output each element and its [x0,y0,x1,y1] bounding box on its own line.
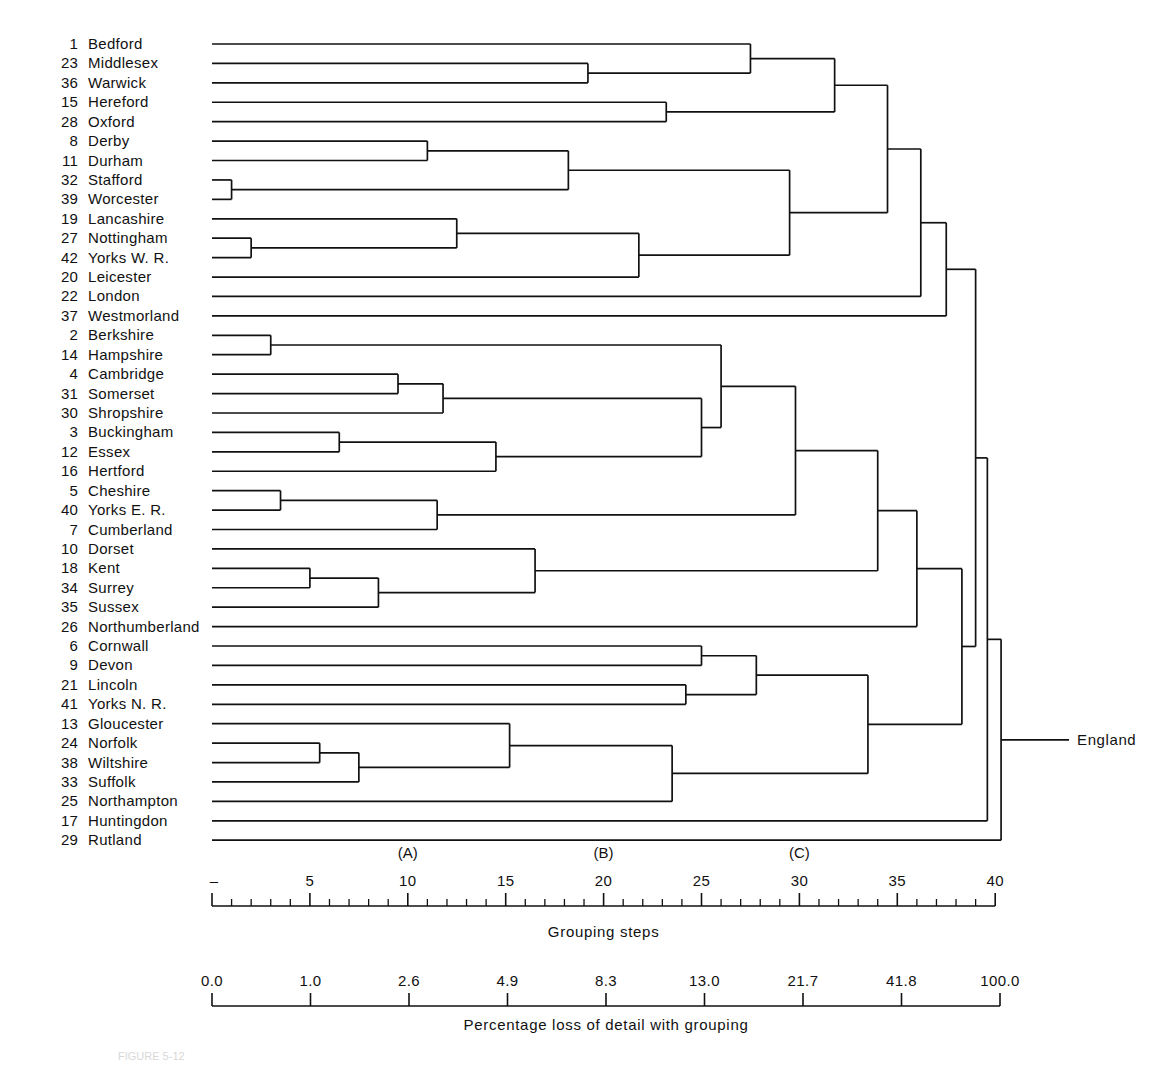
leaf-name: Stafford [88,171,143,188]
leaf-number: 40 [61,501,78,518]
leaf-number: 24 [61,734,78,751]
leaf-number: 12 [61,443,78,460]
axis-tick-label: 8.3 [595,972,617,989]
leaf-number: 1 [69,35,78,52]
axis-tick-label: 40 [986,872,1004,889]
leaf-number: 17 [61,812,78,829]
leaf-name: Wiltshire [88,754,148,771]
leaf-number: 9 [69,656,78,673]
leaf-name: Essex [88,443,131,460]
axis-tick-label: 0.0 [201,972,223,989]
axis-tick-label: 13.0 [689,972,720,989]
grouping-steps-axis-title: Grouping steps [548,923,660,940]
axis-tick-label: 2.6 [398,972,420,989]
leaf-name: Norfolk [88,734,138,751]
leaf-name: Lancashire [88,210,164,227]
leaf-number: 7 [69,521,78,538]
leaf-number: 13 [61,715,78,732]
leaf-number: 18 [61,559,78,576]
leaf-name: Cumberland [88,521,173,538]
leaf-number: 27 [61,229,78,246]
leaf-name: Berkshire [88,326,154,343]
leaf-name: Durham [88,152,143,169]
leaf-name: Hereford [88,93,149,110]
leaf-number: 14 [61,346,78,363]
leaf-name: Northumberland [88,618,200,635]
leaf-name: Huntingdon [88,812,168,829]
leaf-number: 4 [69,365,78,382]
leaf-name: Rutland [88,831,142,848]
axis-tick-label: 5 [306,872,315,889]
leaf-name: Bedford [88,35,143,52]
leaf-number: 30 [61,404,78,421]
leaf-name: Yorks W. R. [88,249,169,266]
leaf-name: London [88,287,140,304]
leaf-name: Surrey [88,579,134,596]
leaf-name: Suffolk [88,773,136,790]
leaf-name: Hampshire [88,346,163,363]
leaf-number: 26 [61,618,78,635]
axis-tick-label: 30 [791,872,809,889]
leaf-name: Leicester [88,268,152,285]
leaf-number: 34 [61,579,78,596]
leaf-name: Dorset [88,540,135,557]
leaf-number: 28 [61,113,78,130]
leaf-number: 20 [61,268,78,285]
leaf-number: 6 [69,637,78,654]
leaf-name: Cambridge [88,365,164,382]
leaf-name: Middlesex [88,54,158,71]
leaf-name: Devon [88,656,133,673]
dendrogram-figure: 1Bedford23Middlesex36Warwick15Hereford28… [0,0,1158,1066]
axis-marker-a: (A) [398,844,418,861]
leaf-number: 11 [62,152,78,169]
axis-marker-c: (C) [789,844,810,861]
axis-tick-label: 21.7 [788,972,819,989]
percentage-loss-axis: 0.01.02.64.98.313.021.741.8100.0 [201,972,1020,1006]
dendrogram-branches [212,44,1001,840]
leaf-name: Lincoln [88,676,138,693]
leaf-number: 10 [61,540,78,557]
root-label: England [1077,731,1136,748]
leaf-number: 23 [61,54,78,71]
figure-caption: FIGURE 5-12 [118,1050,185,1062]
leaf-name: Westmorland [88,307,179,324]
axis-marker-b: (B) [594,844,614,861]
leaf-name: Worcester [88,190,159,207]
leaf-name: Hertford [88,462,145,479]
leaf-number: 33 [61,773,78,790]
axis-tick-label: 20 [595,872,613,889]
leaf-number: 3 [69,423,78,440]
leaf-number: 36 [61,74,78,91]
root-node: England [1001,731,1136,748]
leaf-name: Sussex [88,598,139,615]
axis-tick-label: 25 [693,872,711,889]
leaf-number: 32 [61,171,78,188]
leaf-number: 19 [61,210,78,227]
leaf-name: Cheshire [88,482,150,499]
leaf-number: 31 [61,385,78,402]
leaf-number: 21 [61,676,78,693]
leaf-number: 41 [61,695,78,712]
leaf-name: Nottingham [88,229,168,246]
leaf-name: Cornwall [88,637,149,654]
leaf-name: Derby [88,132,130,149]
leaf-number: 38 [61,754,78,771]
leaf-number: 37 [61,307,78,324]
leaf-number: 29 [61,831,78,848]
leaf-number: 22 [61,287,78,304]
axis-zero-dash: – [210,872,219,889]
leaf-name: Somerset [88,385,155,402]
grouping-steps-axis: 510152025303540–(A)(B)(C) [210,844,1004,906]
axis-tick-label: 15 [497,872,515,889]
axis-tick-label: 41.8 [886,972,917,989]
leaf-number: 35 [61,598,78,615]
leaf-name: Gloucester [88,715,164,732]
axis-tick-label: 35 [889,872,907,889]
leaf-name: Kent [88,559,121,576]
percentage-loss-axis-title: Percentage loss of detail with grouping [464,1016,749,1033]
leaf-number: 39 [61,190,78,207]
leaf-number: 42 [61,249,78,266]
axis-tick-label: 1.0 [299,972,321,989]
leaf-name: Warwick [88,74,146,91]
leaf-label-list: 1Bedford23Middlesex36Warwick15Hereford28… [61,35,200,848]
